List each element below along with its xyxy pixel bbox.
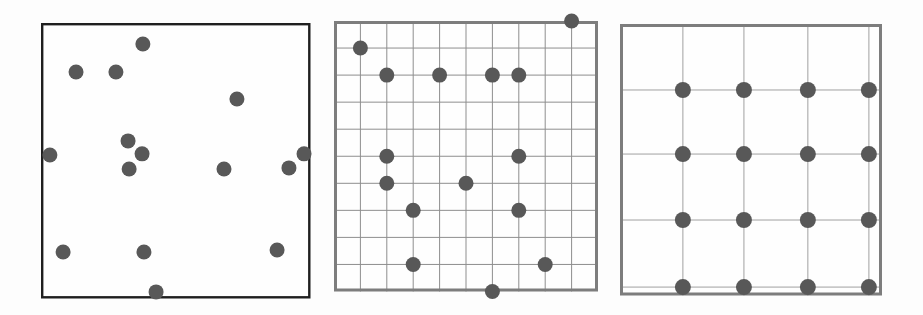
figure-point-patterns — [0, 0, 923, 315]
panel-fine-grid-random-points — [334, 21, 598, 292]
panel-regular-grid-points — [620, 24, 882, 296]
panel-random-points — [41, 23, 311, 299]
